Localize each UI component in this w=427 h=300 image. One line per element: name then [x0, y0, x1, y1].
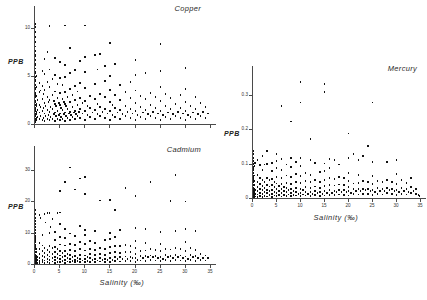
mercury-y-tick-label: 0 [236, 195, 248, 200]
data-point [415, 193, 416, 195]
data-point [104, 108, 105, 110]
mercury-y-tick [249, 164, 253, 165]
data-point [114, 107, 115, 109]
data-point [40, 90, 41, 92]
data-point [107, 259, 108, 261]
data-point [324, 163, 325, 165]
data-point [52, 94, 53, 96]
copper-x-tick [84, 124, 85, 128]
data-point [132, 257, 133, 259]
data-point [334, 190, 335, 192]
data-point [281, 169, 282, 171]
data-point [52, 118, 53, 120]
data-point [319, 195, 320, 197]
data-point [84, 71, 85, 73]
data-point [42, 98, 43, 100]
data-point [36, 251, 37, 253]
mercury-x-tick-label: 35 [414, 203, 426, 208]
data-point [59, 77, 60, 79]
data-point [125, 244, 126, 246]
cadmium-y-tick [31, 233, 35, 234]
copper-x-tick [160, 124, 161, 128]
data-point [271, 162, 272, 164]
data-point [74, 99, 75, 101]
data-point [406, 194, 407, 196]
data-point [182, 257, 183, 259]
data-point [334, 178, 335, 180]
mercury-x-tick-label: 5 [270, 203, 282, 208]
data-point [290, 195, 291, 197]
data-point [99, 53, 100, 55]
data-point [185, 256, 186, 258]
data-point [377, 180, 378, 182]
data-point [253, 175, 254, 177]
data-point [114, 256, 115, 258]
data-point [360, 190, 361, 192]
data-point [386, 187, 387, 189]
data-point [257, 186, 258, 188]
data-point [283, 194, 284, 196]
data-point [367, 188, 368, 190]
data-point [195, 118, 196, 120]
data-point [283, 190, 284, 192]
data-point [286, 187, 287, 189]
data-point [150, 181, 151, 183]
data-point [286, 191, 287, 193]
data-point [190, 254, 191, 256]
data-point [49, 251, 50, 253]
data-point [74, 110, 75, 112]
data-point [343, 184, 344, 186]
data-point [329, 158, 330, 160]
data-point [192, 112, 193, 114]
data-point [119, 109, 120, 111]
data-point [259, 188, 260, 190]
data-point [165, 259, 166, 261]
data-point [200, 102, 201, 104]
cadmium-x-tick [135, 264, 136, 268]
data-point [200, 259, 201, 261]
data-point [62, 256, 63, 258]
data-point [300, 175, 301, 177]
data-point [36, 75, 37, 77]
data-point [290, 121, 291, 123]
data-point [271, 170, 272, 172]
data-point [39, 82, 40, 84]
data-point [341, 191, 342, 193]
data-point [384, 190, 385, 192]
data-point [45, 105, 46, 107]
data-point [295, 181, 296, 183]
data-point [36, 113, 37, 115]
data-point [57, 97, 58, 99]
data-point [290, 157, 291, 159]
data-point [195, 255, 196, 257]
data-point [59, 61, 60, 63]
data-point [264, 181, 265, 183]
data-point [142, 112, 143, 114]
data-point [353, 183, 354, 185]
data-point [55, 115, 56, 117]
data-point [300, 165, 301, 167]
mercury-x-tick [300, 198, 301, 202]
data-point [130, 251, 131, 253]
data-point [67, 96, 68, 98]
data-point [295, 187, 296, 189]
data-point [262, 179, 263, 181]
data-point [84, 56, 85, 58]
data-point [47, 109, 48, 111]
data-point [69, 261, 70, 263]
data-point [170, 97, 171, 99]
data-point [114, 245, 115, 247]
data-point [37, 256, 38, 258]
data-point [302, 189, 303, 191]
data-point [97, 260, 98, 262]
data-point [82, 260, 83, 262]
data-point [254, 193, 255, 195]
data-point [346, 191, 347, 193]
data-point [254, 162, 255, 164]
data-point [367, 193, 368, 195]
mercury-y-tick [249, 129, 253, 130]
data-point [293, 194, 294, 196]
data-point [419, 195, 420, 197]
data-point [94, 258, 95, 260]
data-point [84, 255, 85, 257]
